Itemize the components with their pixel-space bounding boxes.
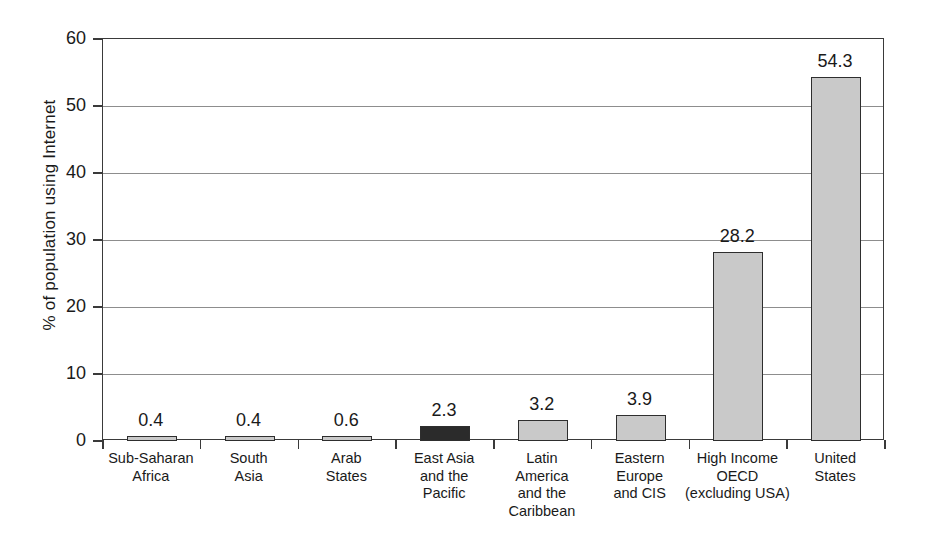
- y-axis-tick: [93, 373, 102, 375]
- gridline: [103, 307, 883, 308]
- y-axis-tick-label: 30: [30, 230, 86, 248]
- y-axis-tick: [93, 105, 102, 107]
- bar-value-label: 28.2: [692, 227, 782, 245]
- x-axis-tick: [102, 440, 104, 449]
- x-axis-tick: [786, 440, 788, 449]
- bar-value-label: 3.2: [497, 395, 587, 413]
- bar-value-label: 54.3: [790, 52, 880, 70]
- y-axis-tick: [93, 172, 102, 174]
- bar: [518, 420, 568, 441]
- y-axis-tick-label: 0: [30, 431, 86, 449]
- bar-value-label: 2.3: [399, 401, 489, 419]
- x-axis-tick: [493, 440, 495, 449]
- bar-value-label: 0.4: [106, 411, 196, 429]
- x-axis-tick: [689, 440, 691, 449]
- bar: [420, 426, 470, 441]
- gridline: [103, 173, 883, 174]
- y-axis-tick: [93, 38, 102, 40]
- bar: [811, 77, 861, 441]
- y-axis-tick-label: 60: [30, 29, 86, 47]
- x-axis-tick: [298, 440, 300, 449]
- gridline: [103, 374, 883, 375]
- bar: [616, 415, 666, 441]
- y-axis-tick-label: 10: [30, 364, 86, 382]
- y-axis-tick-label: 20: [30, 297, 86, 315]
- y-axis-tick-label: 40: [30, 163, 86, 181]
- y-axis-tick-label: 50: [30, 96, 86, 114]
- bar: [322, 436, 372, 441]
- x-axis-tick: [200, 440, 202, 449]
- x-axis-tick: [395, 440, 397, 449]
- gridline: [103, 106, 883, 107]
- bar: [127, 436, 177, 441]
- y-axis-tick: [93, 306, 102, 308]
- x-axis-tick: [591, 440, 593, 449]
- x-axis-tick: [884, 440, 886, 449]
- y-axis-tick: [93, 239, 102, 241]
- bar: [713, 252, 763, 441]
- bar: [225, 436, 275, 441]
- bar-value-label: 0.4: [204, 411, 294, 429]
- bar-value-label: 0.6: [301, 411, 391, 429]
- y-axis-tick: [93, 440, 102, 442]
- x-axis-category-label: United States: [773, 450, 897, 485]
- bar-chart-figure: % of population using Internet 010203040…: [0, 0, 930, 545]
- y-axis-title: % of population using Internet: [40, 15, 60, 415]
- bar-value-label: 3.9: [595, 390, 685, 408]
